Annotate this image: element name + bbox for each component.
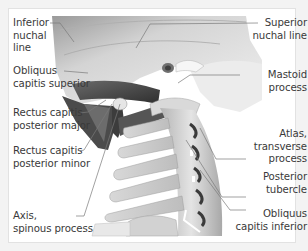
label-line: spinous process <box>13 223 93 236</box>
label-line: Obliquus <box>236 208 304 221</box>
label-rectus-capitis-posterior-minor: Rectus capitis posterior minor <box>13 145 90 170</box>
label-axis-spinous-process: Axis, spinous process <box>13 210 93 235</box>
label-line: Mastoid <box>268 69 303 82</box>
label-line: process <box>268 82 303 95</box>
label-obliquus-capitis-inferior: Obliquus capitis inferior <box>236 208 304 233</box>
label-line: capitis superior <box>13 78 90 91</box>
label-atlas-transverse-process: Atlas, transverse process <box>254 128 303 166</box>
label-line: capitis inferior <box>236 221 304 234</box>
label-line: tubercle <box>263 184 303 197</box>
label-line: process <box>254 153 303 166</box>
label-line: transverse <box>254 141 303 154</box>
label-line: Inferior <box>13 17 49 30</box>
label-line: Rectus capitis <box>13 107 90 120</box>
label-line: Obliquus <box>13 65 90 78</box>
label-line: nuchal <box>13 30 49 43</box>
label-posterior-tubercle: Posterior tubercle <box>263 171 303 196</box>
label-rectus-capitis-posterior-major: Rectus capitis posterior major <box>13 107 90 132</box>
label-superior-nuchal-line: Superior nuchal line <box>252 17 303 42</box>
label-mastoid-process: Mastoid process <box>268 69 303 94</box>
label-line: posterior major <box>13 120 90 133</box>
label-line: Rectus capitis <box>13 145 90 158</box>
label-line: Axis, <box>13 210 93 223</box>
label-line: posterior minor <box>13 158 90 171</box>
label-line: line <box>13 42 49 55</box>
label-line: Atlas, <box>254 128 303 141</box>
label-inferior-nuchal-line: Inferior nuchal line <box>13 17 49 55</box>
label-line: Superior <box>252 17 303 30</box>
label-obliquus-capitis-superior: Obliquus capitis superior <box>13 65 90 90</box>
label-line: nuchal line <box>252 30 303 43</box>
label-line: Posterior <box>263 171 303 184</box>
